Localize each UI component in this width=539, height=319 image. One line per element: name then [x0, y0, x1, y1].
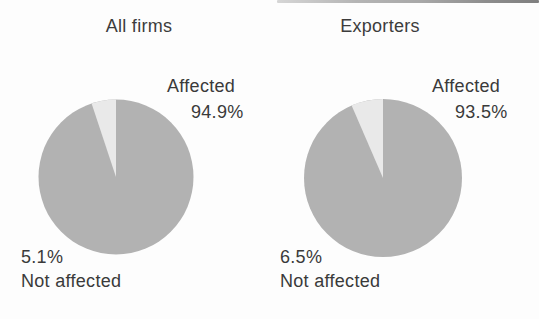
not-affected-slice-label: Not affected [280, 271, 380, 292]
affected-slice-value: 94.9% [191, 102, 244, 123]
chart-title-exporters: Exporters [300, 16, 460, 37]
chart-title-all-firms: All firms [59, 16, 219, 37]
pie-exporters [303, 98, 463, 258]
not-affected-slice-label: Not affected [21, 271, 121, 292]
scan-artifact-line [277, 0, 539, 3]
affected-slice-label: Affected [432, 76, 500, 97]
not-affected-slice-value: 6.5% [280, 247, 322, 268]
pie-all-firms [36, 97, 196, 257]
affected-slice-label: Affected [167, 76, 235, 97]
not-affected-slice-value: 5.1% [21, 247, 63, 268]
affected-slice-value: 93.5% [455, 102, 508, 123]
dual-pie-figure: All firms Affected 94.9% 5.1% Not affect… [0, 0, 539, 319]
